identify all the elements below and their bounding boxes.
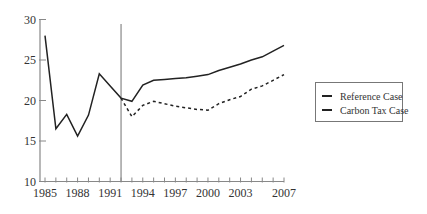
x-tick-label: 2003 (229, 186, 253, 200)
y-tick-label: 20 (24, 94, 36, 108)
legend-item-carbon-tax-case: Carbon Tax Case (316, 103, 409, 117)
x-tick-label: 1994 (131, 186, 155, 200)
legend-label: Reference Case (340, 91, 402, 102)
x-tick-label: 1991 (98, 186, 122, 200)
series-line-carbon-tax-case (121, 75, 284, 117)
chart-series (45, 36, 284, 136)
x-tick-label: 1997 (163, 186, 187, 200)
chart-legend: Reference Case Carbon Tax Case (315, 82, 403, 122)
x-tick-label: 1988 (66, 186, 90, 200)
x-tick-label: 2000 (196, 186, 220, 200)
series-line-reference-case (45, 36, 284, 136)
dashed-line-swatch-icon (322, 109, 332, 111)
legend-item-reference-case: Reference Case (316, 89, 402, 103)
x-axis: 19851988199119941997200020032007 (33, 178, 296, 200)
legend-label: Carbon Tax Case (340, 105, 409, 116)
y-tick-label: 25 (24, 53, 36, 67)
solid-line-swatch-icon (322, 95, 332, 97)
y-tick-label: 15 (24, 134, 36, 148)
x-tick-label: 1985 (33, 186, 57, 200)
y-tick-label: 30 (24, 13, 36, 27)
y-axis: 1015202530 (24, 13, 46, 189)
x-tick-label: 2007 (272, 186, 296, 200)
